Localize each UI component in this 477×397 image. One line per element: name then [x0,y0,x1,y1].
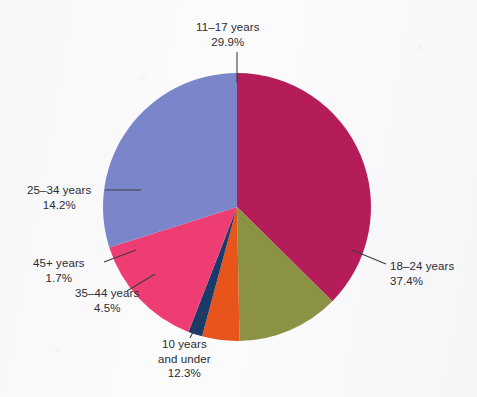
slice-label-10-years-and-under: 10 years and under 12.3% [158,337,211,381]
slice-label-45-plus-years-name: 45+ years [33,257,85,269]
slice-label-35-44-years-percent: 4.5% [75,301,139,316]
slice-label-10-years-and-under-percent: 12.3% [158,366,211,381]
slice-label-18-24-years-name: 18–24 years [390,260,454,272]
slice-label-35-44-years-name: 35–44 years [75,287,139,299]
slice-label-25-34-years-name: 25–34 years [27,184,91,196]
slice-label-11-17-years: 11–17 years 29.9% [196,20,260,49]
slice-label-11-17-years-percent: 29.9% [196,35,260,50]
slice-label-11-17-years-name: 11–17 years [196,21,260,33]
slice-label-45-plus-years: 45+ years 1.7% [33,256,85,285]
slice-label-10-years-and-under-line2: and under [158,352,211,367]
slice-label-10-years-and-under-line1: 10 years [162,338,207,350]
slice-label-35-44-years: 35–44 years 4.5% [75,286,139,315]
slice-label-25-34-years: 25–34 years 14.2% [27,183,91,212]
slice-label-45-plus-years-percent: 1.7% [33,271,85,286]
slice-label-25-34-years-percent: 14.2% [27,198,91,213]
pie-chart: 11–17 years 29.9% 18–24 years 37.4% 10 y… [0,0,477,397]
slice-label-18-24-years-percent: 37.4% [390,274,454,289]
pie-slices-exact [103,73,371,341]
slice-label-18-24-years: 18–24 years 37.4% [390,259,454,288]
